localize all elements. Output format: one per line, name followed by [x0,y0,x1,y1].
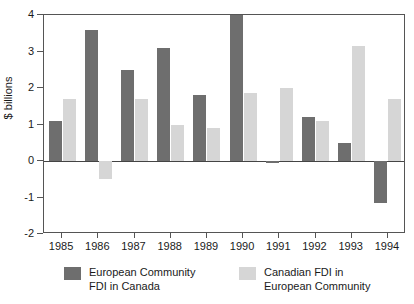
legend-entry-0: European Community FDI in Canada [64,266,195,293]
x-tick-label-1990: 1990 [222,240,262,252]
bar-group-1991 [266,15,293,232]
x-tick-label-1993: 1993 [331,240,371,252]
x-tick-label-1988: 1988 [150,240,190,252]
plot-area [43,14,405,233]
x-tick-mark-1994 [387,233,388,238]
x-tick-mark-1987 [134,233,135,238]
x-tick-mark-1990 [242,233,243,238]
bar-group-1988 [157,15,184,232]
x-tick-mark-1985 [61,233,62,238]
bar-1987-series-0 [121,70,134,161]
x-tick-label-1985: 1985 [41,240,81,252]
bar-1994-series-1 [388,99,401,161]
x-axis: 1985198619871988198919901991199219931994 [43,233,405,257]
bar-1986-series-0 [85,30,98,161]
y-tick-label--1: -1 [24,191,34,202]
legend-swatch-light [239,267,256,280]
bar-group-1993 [338,15,365,232]
bar-1990-series-0 [230,15,243,161]
x-tick-mark-1991 [278,233,279,238]
bar-group-1987 [121,15,148,232]
bar-group-1990 [230,15,257,232]
x-tick-label-1994: 1994 [367,240,407,252]
y-tick-label-1: 1 [28,118,34,129]
bar-1988-series-1 [171,125,184,162]
bar-1985-series-1 [63,99,76,161]
x-tick-label-1992: 1992 [295,240,335,252]
x-tick-mark-1986 [97,233,98,238]
chart-legend: European Community FDI in CanadaCanadian… [43,266,405,302]
bar-chart-figure: $ billions 43210-1-2 1985198619871988198… [0,0,414,304]
bar-1994-series-0 [374,161,387,203]
y-tick-label-0: 0 [28,155,34,166]
bar-group-1985 [49,15,76,232]
x-tick-mark-1993 [351,233,352,238]
x-tick-mark-1988 [170,233,171,238]
y-tick-label-3: 3 [28,45,34,56]
legend-swatch-dark [64,267,81,280]
x-tick-label-1989: 1989 [186,240,226,252]
bar-1989-series-0 [193,95,206,161]
x-tick-label-1986: 1986 [77,240,117,252]
legend-label-1: Canadian FDI in European Community [264,266,370,293]
y-tick-label--2: -2 [24,228,34,239]
bar-group-1992 [302,15,329,232]
bar-group-1989 [193,15,220,232]
x-tick-label-1991: 1991 [258,240,298,252]
y-tick-label-4: 4 [28,9,34,20]
bar-1991-series-1 [280,88,293,161]
bar-1989-series-1 [207,128,220,161]
bar-1993-series-1 [352,46,365,161]
bar-1990-series-1 [244,93,257,161]
y-axis: $ billions 43210-1-2 [0,0,43,247]
x-tick-mark-1992 [315,233,316,238]
bar-group-1986 [85,15,112,232]
bar-group-1994 [374,15,401,232]
bar-1992-series-1 [316,121,329,161]
bar-1986-series-1 [99,161,112,179]
legend-entry-1: Canadian FDI in European Community [239,266,370,293]
x-tick-label-1987: 1987 [114,240,154,252]
bar-1987-series-1 [135,99,148,161]
bar-1993-series-0 [338,143,351,161]
legend-label-0: European Community FDI in Canada [89,266,195,293]
y-axis-title: $ billions [2,48,14,148]
x-tick-mark-1989 [206,233,207,238]
bar-1992-series-0 [302,117,315,161]
y-tick-label-2: 2 [28,82,34,93]
bar-1991-series-0 [266,161,279,163]
bar-1985-series-0 [49,121,62,161]
bar-1988-series-0 [157,48,170,161]
